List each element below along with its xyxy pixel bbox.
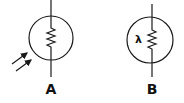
resistor-zigzag-b	[148, 26, 156, 54]
label-b: B	[142, 82, 162, 96]
light-arrow-icon	[12, 53, 27, 64]
symbol-a-photoresistor	[12, 0, 73, 77]
label-a: A	[41, 82, 61, 96]
lambda-symbol: λ	[135, 34, 142, 45]
symbol-b-ldr	[127, 4, 173, 77]
light-arrow-icon	[16, 60, 31, 71]
resistor-zigzag-a	[47, 24, 55, 52]
